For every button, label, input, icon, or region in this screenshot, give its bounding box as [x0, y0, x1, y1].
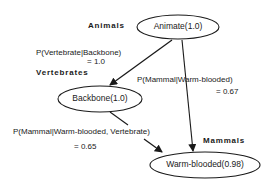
group-label-vertebrates: Vertebrates — [36, 69, 88, 77]
edge-label-animate-warm-1: P(Mammal|Warm-blooded) — [137, 76, 233, 84]
edge-label-animate-backbone-2: = 1.0 — [87, 58, 105, 66]
edge-label-animate-warm-2: = 0.67 — [216, 88, 238, 96]
group-label-mammals: Mammals — [203, 137, 245, 145]
group-label-animals: Animals — [88, 22, 125, 30]
node-backbone-label: Backbone(1.0) — [64, 94, 136, 103]
edge-label-backbone-warm-2: = 0.65 — [74, 143, 96, 151]
node-animate-label: Animate(1.0) — [146, 22, 210, 31]
edge-label-animate-backbone-1: P(Vertebrate|Backbone) — [36, 49, 121, 57]
node-warm-label: Warm-blooded(0.98) — [153, 160, 257, 169]
edge-backbone-warm-arrow — [144, 139, 162, 152]
edge-label-backbone-warm-1: P(Mammal|Warm-blooded, Vertebrate) — [13, 128, 150, 136]
edge-animate-warm — [182, 40, 193, 151]
edge-backbone-warm — [110, 112, 128, 125]
